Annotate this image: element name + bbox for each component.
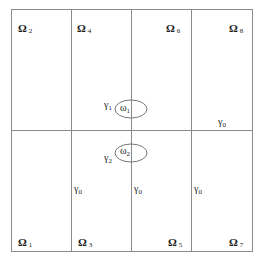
label-gamma-1: γ1	[104, 100, 112, 112]
omega-symbol: Ω	[78, 236, 87, 248]
omega-index: 4	[88, 27, 92, 35]
omega-index: 3	[89, 241, 93, 249]
omega-index: 8	[240, 27, 244, 35]
label-small-omega-2: ω2	[120, 146, 130, 158]
omega-symbol: Ω	[168, 236, 177, 248]
omega-symbol: Ω	[18, 22, 27, 34]
omega-index: 5	[179, 241, 183, 249]
small-omega-index: 2	[127, 150, 131, 158]
label-omega-6: Ω6	[166, 23, 180, 35]
omega-symbol: Ω	[18, 236, 27, 248]
label-omega-8: Ω8	[229, 23, 243, 35]
small-omega-symbol: ω	[120, 145, 127, 156]
gamma-index: 0	[198, 188, 202, 196]
label-omega-4: Ω4	[77, 23, 91, 35]
omega-index: 6	[177, 27, 181, 35]
omega-symbol: Ω	[229, 22, 238, 34]
label-omega-3: Ω3	[78, 237, 92, 249]
label-omega-7: Ω7	[229, 237, 243, 249]
label-omega-1: Ω1	[18, 237, 32, 249]
omega-symbol: Ω	[77, 22, 86, 34]
gamma-index: 2	[108, 157, 112, 165]
grid-lines	[0, 0, 263, 263]
gamma-index: 0	[138, 188, 142, 196]
label-gamma-0-col2: γ0	[134, 184, 142, 196]
gamma-index: 0	[222, 121, 226, 129]
domain-decomposition-diagram: Ω2 Ω4 Ω6 Ω8 Ω1 Ω3 Ω5 Ω7 ω1 γ1 ω2 γ2 γ0 γ…	[0, 0, 263, 263]
small-omega-index: 1	[127, 107, 131, 115]
label-small-omega-1: ω1	[120, 103, 130, 115]
omega-index: 7	[240, 241, 244, 249]
label-gamma-0-col3: γ0	[194, 184, 202, 196]
gamma-index: 1	[108, 104, 112, 112]
label-gamma-0-col1: γ0	[74, 184, 82, 196]
omega-symbol: Ω	[166, 22, 175, 34]
label-gamma-0-upper-right: γ0	[218, 117, 226, 129]
label-omega-2: Ω2	[18, 23, 32, 35]
label-omega-5: Ω5	[168, 237, 182, 249]
label-gamma-2: γ2	[104, 153, 112, 165]
omega-symbol: Ω	[229, 236, 238, 248]
small-omega-symbol: ω	[120, 102, 127, 113]
omega-index: 1	[29, 241, 33, 249]
gamma-index: 0	[78, 188, 82, 196]
omega-index: 2	[29, 27, 33, 35]
